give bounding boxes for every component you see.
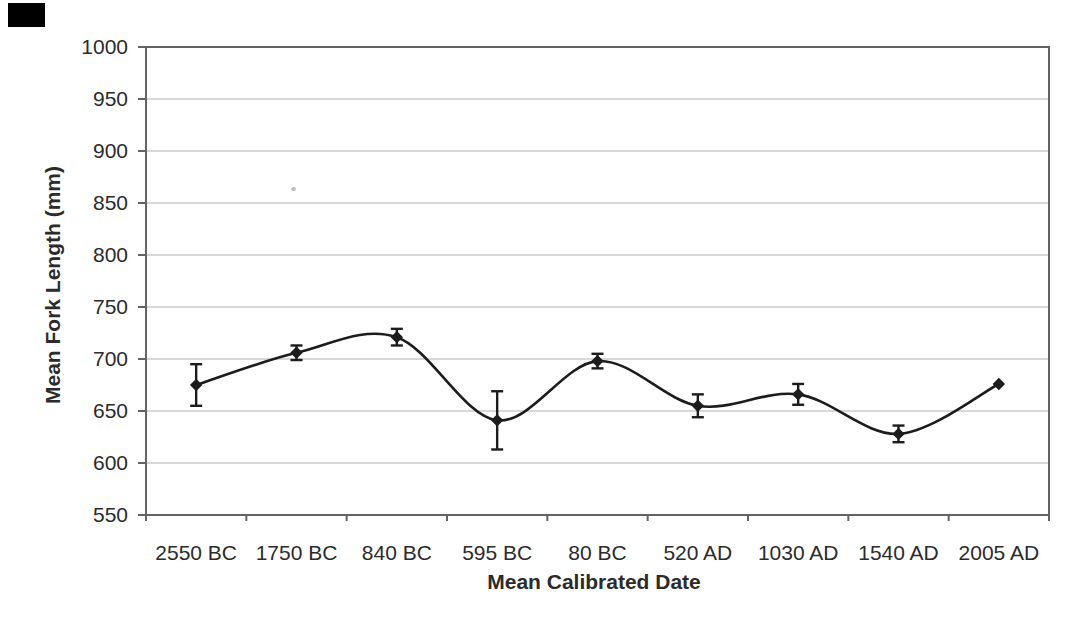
data-point-marker [993,378,1005,390]
data-point-marker [692,400,704,412]
y-tick-label: 800 [93,243,128,266]
chart-page: 55060065070075080085090095010002550 BC17… [0,0,1085,621]
y-tick-label: 900 [93,139,128,162]
x-tick-label: 840 BC [362,541,432,564]
y-axis-title: Mean Fork Length (mm) [41,166,64,404]
plot-border [146,47,1049,515]
x-axis-title: Mean Calibrated Date [487,570,701,593]
x-tick-label: 595 BC [462,541,532,564]
fork-length-line-chart: 55060065070075080085090095010002550 BC17… [0,0,1085,621]
x-tick-label: 2550 BC [155,541,237,564]
y-tick-label: 550 [93,503,128,526]
y-axis-ticks [138,47,146,515]
x-tick-label: 1030 AD [758,541,839,564]
data-point-marker [391,331,403,343]
data-point-marker [792,388,804,400]
y-tick-label: 850 [93,191,128,214]
data-point-marker [190,379,202,391]
y-tick-label: 700 [93,347,128,370]
gridlines [146,99,1049,463]
y-tick-label: 600 [93,451,128,474]
x-tick-label: 1750 BC [256,541,338,564]
y-tick-labels: 5506006507007508008509009501000 [81,35,128,526]
y-tick-label: 750 [93,295,128,318]
chart-plot-area: 55060065070075080085090095010002550 BC17… [81,35,1049,564]
data-point-marker [591,355,603,367]
data-point-marker [892,428,904,440]
x-tick-label: 1540 AD [858,541,939,564]
series-line [196,334,999,434]
y-tick-label: 950 [93,87,128,110]
data-point-marker [491,414,503,426]
x-tick-label: 80 BC [568,541,626,564]
x-tick-labels: 2550 BC1750 BC840 BC595 BC80 BC520 AD103… [155,541,1039,564]
y-tick-label: 650 [93,399,128,422]
x-tick-label: 520 AD [663,541,732,564]
data-point-marker [290,347,302,359]
x-tick-label: 2005 AD [959,541,1040,564]
y-tick-label: 1000 [81,35,128,58]
